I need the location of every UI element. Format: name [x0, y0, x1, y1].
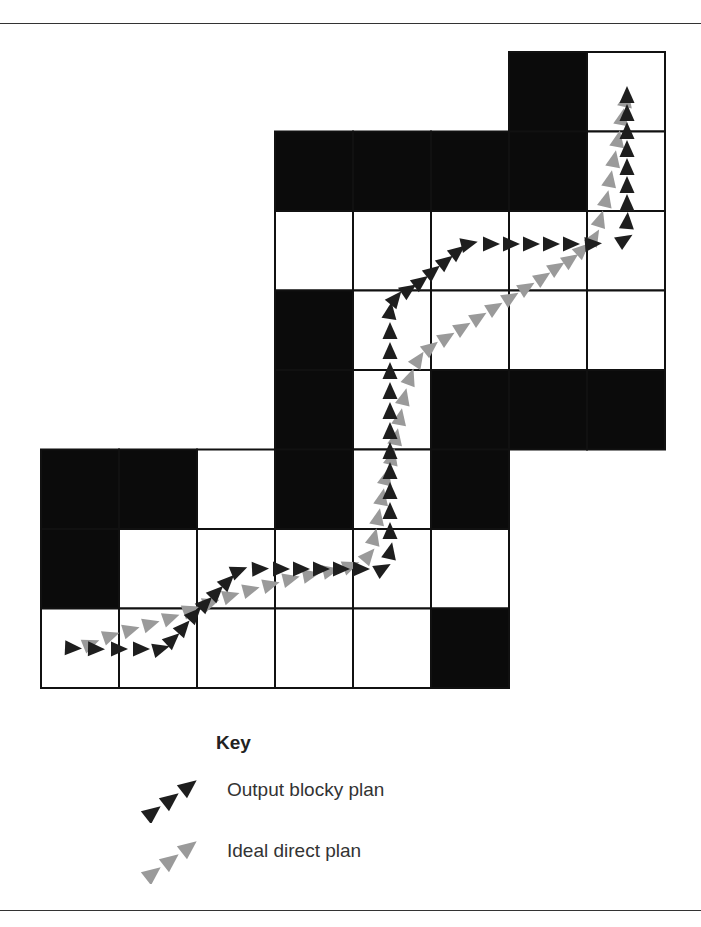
grid-cell-free — [431, 211, 509, 291]
arrowhead-icon — [141, 800, 166, 823]
grid-cell-free — [587, 291, 665, 371]
path-planning-grid-figure — [0, 0, 701, 720]
arrowhead-icon — [141, 861, 166, 884]
grid-cell-obstacle — [431, 609, 509, 689]
grid-cell-free — [119, 529, 197, 609]
arrowhead-icon — [159, 787, 184, 812]
grid-cell-obstacle — [41, 529, 119, 609]
grid-cell-obstacle — [275, 370, 353, 450]
black-arrow-chain-icon — [140, 773, 210, 823]
grid-cell-obstacle — [431, 450, 509, 530]
grid-cell-free — [275, 609, 353, 689]
grid-cell-free — [197, 450, 275, 530]
occupancy-grid — [41, 52, 665, 688]
grid-cell-obstacle — [275, 291, 353, 371]
grid-cell-free — [353, 609, 431, 689]
grid-cell-obstacle — [353, 132, 431, 212]
grid-cell-obstacle — [119, 450, 197, 530]
bottom-rule — [0, 910, 701, 911]
grid-cell-obstacle — [431, 370, 509, 450]
key-title: Key — [216, 732, 251, 754]
grid-cell-free — [431, 529, 509, 609]
grid-cell-obstacle — [275, 132, 353, 212]
gray-arrow-chain-icon — [140, 834, 210, 884]
grid-cell-free — [431, 291, 509, 371]
grid-cell-free — [197, 609, 275, 689]
arrowhead-icon — [159, 848, 184, 873]
arrowhead-icon — [177, 774, 202, 799]
grid-cell-obstacle — [431, 132, 509, 212]
grid-cell-obstacle — [275, 450, 353, 530]
grid-cell-free — [275, 211, 353, 291]
grid-cell-obstacle — [41, 450, 119, 530]
arrowhead-icon — [177, 835, 202, 860]
grid-cell-free — [509, 291, 587, 371]
grid-cell-obstacle — [509, 52, 587, 132]
key-label-output-blocky-plan: Output blocky plan — [227, 779, 384, 801]
key-label-ideal-direct-plan: Ideal direct plan — [227, 840, 361, 862]
grid-cell-obstacle — [509, 370, 587, 450]
grid-cell-obstacle — [587, 370, 665, 450]
grid-cell-obstacle — [509, 132, 587, 212]
